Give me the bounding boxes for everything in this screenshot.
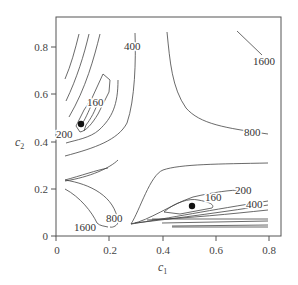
contour-label: 200 (235, 184, 252, 196)
y-tick-label: 0.2 (34, 183, 48, 195)
y-tick-label: 0.6 (34, 88, 48, 100)
contour-label: 200 (56, 128, 73, 140)
x-tick-label: 0.2 (103, 244, 117, 256)
x-tick-label: 0.8 (262, 244, 276, 256)
minimum-marker (78, 121, 84, 127)
contour-label: 800 (106, 212, 123, 224)
y-tick-label: 0 (43, 230, 49, 242)
x-tick-label: 0 (54, 244, 60, 256)
y-tick-label: 0.8 (34, 41, 48, 53)
contour-plot: 0 0.2 0.4 0.6 0.8 0 0.2 0.4 0.6 0.8 c1 c… (0, 0, 298, 285)
contour-label: 160 (87, 96, 104, 108)
x-tick-label: 0.4 (156, 244, 170, 256)
contour-labels: 400 1600 160 200 800 200 160 400 800 160… (56, 40, 276, 233)
y-axis: 0 0.2 0.4 0.6 0.8 (34, 41, 56, 242)
contour-lines (65, 31, 268, 227)
contour-label: 160 (205, 191, 222, 203)
y-tick-label: 0.4 (34, 136, 48, 148)
minimum-marker (189, 203, 195, 209)
x-tick-label: 0.6 (209, 244, 223, 256)
y-axis-label: c2 (15, 135, 24, 151)
contour-label: 400 (124, 40, 141, 52)
contour-label: 1600 (253, 55, 276, 67)
x-axis: 0 0.2 0.4 0.6 0.8 (54, 236, 276, 256)
contour-label: 800 (244, 126, 261, 138)
contour-label: 400 (246, 198, 263, 210)
contour-label: 1600 (74, 221, 97, 233)
x-axis-label: c1 (158, 260, 167, 276)
